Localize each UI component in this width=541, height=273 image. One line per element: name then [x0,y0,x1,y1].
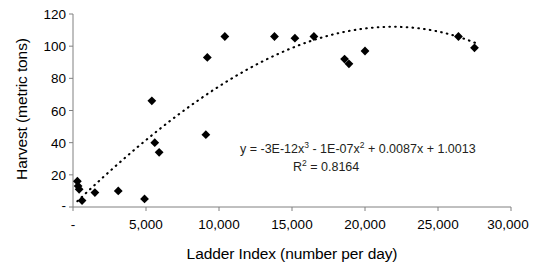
data-points [73,32,479,205]
r-squared-lead: R [293,160,302,174]
data-point-marker [220,32,229,41]
x-axis-tickmarks [73,207,511,211]
plot-area [0,0,541,273]
data-point-marker [78,196,87,205]
data-point-marker [150,138,159,147]
data-point-marker [470,43,479,52]
data-point-marker [291,34,300,43]
data-point-marker [91,188,100,197]
equation-mid1: - 1E-07x [309,142,360,156]
y-axis-tickmarks [69,14,73,207]
r-squared-label: R2 = 0.8164 [293,158,359,176]
axis-lines [73,14,511,207]
equation-mid2: + 0.0087x + 1.0013 [364,142,475,156]
trendline-polynomial [77,27,479,201]
r-squared-value: = 0.8164 [307,160,359,174]
scatter-chart: Harvest (metric tons) Ladder Index (numb… [0,0,541,273]
trendline-equation: y = -3E-12x3 - 1E-07x2 + 0.0087x + 1.001… [240,140,476,158]
data-point-marker [270,32,279,41]
data-point-marker [203,53,212,62]
equation-lead: y = -3E-12x [240,142,304,156]
data-point-marker [147,96,156,105]
data-point-marker [140,195,149,204]
data-point-marker [201,130,210,139]
data-point-marker [361,47,370,56]
data-point-marker [310,32,319,41]
data-point-marker [114,187,123,196]
data-point-marker [155,148,164,157]
data-point-marker [454,32,463,41]
